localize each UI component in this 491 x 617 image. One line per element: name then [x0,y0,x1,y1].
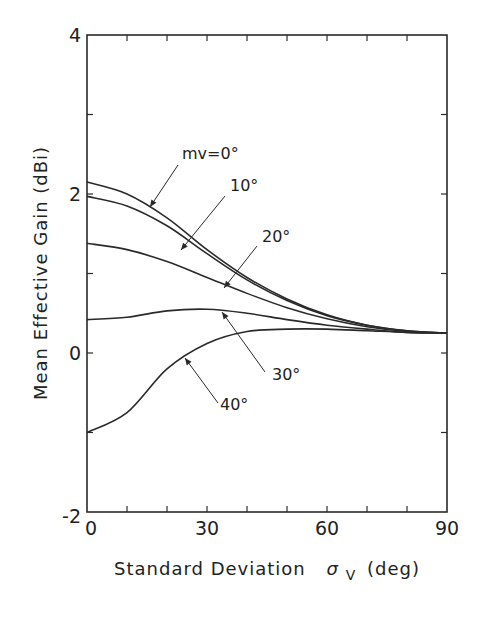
plot-frame [87,35,447,512]
x-axis-sigma-symbol: σ [327,558,339,579]
x-tick-label: 60 [315,517,339,539]
series-label: 40° [220,395,248,414]
plot-border [87,35,447,512]
y-tick-label: 2 [69,183,81,205]
series-line-1 [87,196,447,333]
y-tick-label: -2 [62,505,81,527]
y-tick-label: 0 [69,342,81,364]
annotation-arrow [181,196,225,250]
series-label: mv=0° [182,144,239,163]
series-annotations: mv=0°10°20°30°40° [150,144,300,414]
x-axis-unit: (deg) [367,558,420,579]
y-tick-label: 4 [69,24,81,46]
x-axis-label-text: Standard Deviation [114,558,306,579]
y-axis-label: Mean Effective Gain (dBi) [30,146,51,400]
axis-ticks [87,35,447,512]
x-tick-label: 90 [435,517,459,539]
annotation-arrow [222,312,265,372]
series-label: 10° [230,176,258,195]
annotation-arrow [150,165,178,207]
series-curves [87,182,447,432]
series-line-4 [87,329,447,433]
arrowhead-icon [185,358,192,365]
arrowhead-icon [150,200,156,207]
annotation-arrow [185,358,218,403]
arrowhead-icon [181,243,188,250]
series-line-0 [87,182,447,333]
series-label: 20° [262,227,290,246]
arrowhead-icon [222,312,229,319]
x-tick-label: 30 [195,517,219,539]
tick-labels: 0306090-2024 [62,24,459,539]
annotation-arrow [224,246,257,288]
x-axis-label: Standard Deviation σ V (deg) [114,558,420,584]
mean-effective-gain-chart: 0306090-2024 mv=0°10°20°30°40° Mean Effe… [0,0,491,617]
x-axis-subscript: V [346,567,357,583]
series-label: 30° [272,365,300,384]
x-tick-label: 0 [85,517,97,539]
